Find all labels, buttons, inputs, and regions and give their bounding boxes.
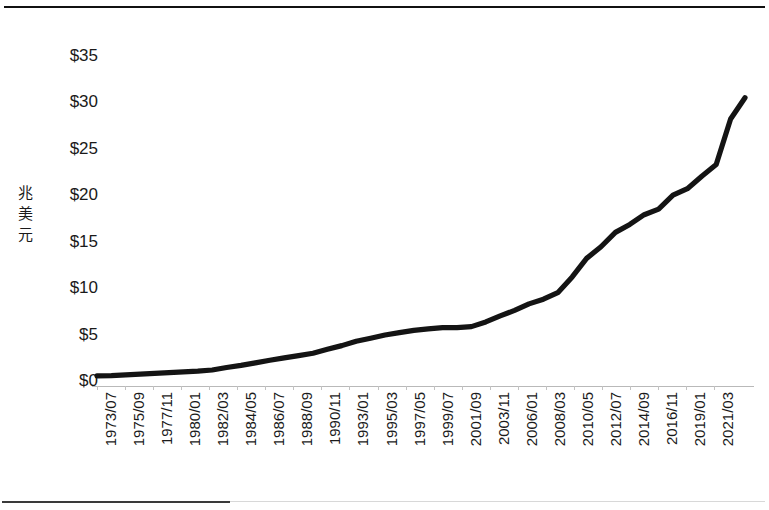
x-axis-tick-mark [602,386,603,390]
x-axis-tick-label: 2001/09 [468,392,483,446]
x-axis-tick-label: 2019/01 [692,392,707,446]
x-axis-tick-mark [97,386,98,390]
x-axis-tick-label: 1990/11 [327,392,342,445]
x-axis-tick-label: 2016/11 [664,392,679,445]
x-axis-tick-mark [237,386,238,390]
x-axis-tick-label: 1986/07 [271,392,286,446]
x-axis-tick-label: 2014/09 [636,392,651,446]
x-axis-tick-label: 2008/03 [552,392,567,446]
x-axis-tick-mark [714,386,715,390]
x-axis-tick-mark [658,386,659,390]
x-axis-tick-mark [378,386,379,390]
chart-figure: 兆 美 元 $35$30$25$20$15$10$5$0 1973/071975… [0,0,769,510]
x-axis-tick-label: 1988/09 [299,392,314,446]
x-axis-tick-label: 2006/01 [524,392,539,446]
x-axis-tick-mark [153,386,154,390]
x-axis-tick-label: 1977/11 [159,392,174,445]
x-axis-tick-mark [265,386,266,390]
bottom-divider-rule [2,501,230,503]
x-axis-tick-label: 1995/03 [384,392,399,446]
x-axis-tick-mark [125,386,126,390]
x-axis-tick-mark [462,386,463,390]
x-axis-tick-label: 1999/07 [440,392,455,446]
x-axis-tick-label: 2021/03 [720,392,735,446]
x-axis-tick-mark [518,386,519,390]
x-axis-tick-label: 1973/07 [103,392,118,446]
x-axis-tick-label: 2012/07 [608,392,623,446]
x-axis-tick-label: 1980/01 [187,392,202,446]
x-axis-tick-label: 1993/01 [355,392,370,446]
debt-line-series [97,98,745,376]
x-axis-tick-mark [546,386,547,390]
x-axis-tick-label: 1984/05 [243,392,258,446]
x-axis-tick-label: 1975/09 [131,392,146,446]
x-axis-tick-label: 2010/05 [580,392,595,446]
x-axis-tick-mark [181,386,182,390]
x-axis-tick-label: 2003/11 [496,392,511,445]
x-axis-tick-mark [209,386,210,390]
x-axis-tick-label: 1997/05 [412,392,427,446]
x-axis-tick-mark [434,386,435,390]
x-axis-tick-label: 1982/03 [215,392,230,446]
x-axis-tick-mark [490,386,491,390]
x-axis-tick-mark [630,386,631,390]
x-axis-tick-mark [406,386,407,390]
x-axis-tick-mark [293,386,294,390]
x-axis-tick-mark [574,386,575,390]
x-axis-tick-mark [686,386,687,390]
x-axis-tick-mark [321,386,322,390]
bottom-divider-rule-faded [230,501,765,502]
x-axis-tick-mark [349,386,350,390]
